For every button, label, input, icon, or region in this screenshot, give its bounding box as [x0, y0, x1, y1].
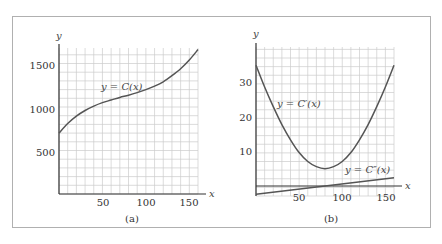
x-tick-50-a: 50 — [97, 197, 110, 208]
curve-label-c-double-prime: y = C″(x) — [344, 164, 390, 175]
x-tick-50-b: 50 — [293, 192, 306, 203]
y-tick-10: 10 — [239, 146, 252, 157]
panel-b: y x 10 20 30 50 100 150 y = C′(x) y = C″… — [239, 28, 411, 224]
grid-a — [59, 48, 198, 194]
y-tick-500: 500 — [36, 147, 55, 158]
caption-a: (a) — [125, 213, 139, 224]
y-tick-1500: 1500 — [30, 60, 55, 71]
x-axis-label-b: x — [405, 180, 411, 191]
caption-b: (b) — [324, 213, 338, 224]
y-axis-label-b: y — [252, 28, 259, 39]
y-tick-20: 20 — [239, 112, 252, 123]
x-tick-100-b: 100 — [332, 192, 351, 203]
curve-label-c: y = C(x) — [100, 81, 143, 92]
panel-a: y x 500 1000 1500 50 100 150 y = C(x) (a… — [30, 30, 215, 224]
x-tick-150-b: 150 — [376, 192, 395, 203]
curve-label-c-prime: y = C′(x) — [276, 98, 321, 109]
figure-canvas: y x 500 1000 1500 50 100 150 y = C(x) (a… — [0, 0, 442, 244]
x-tick-100-a: 100 — [136, 197, 155, 208]
x-tick-150-a: 150 — [179, 197, 198, 208]
y-axis-label-a: y — [55, 30, 62, 41]
x-axis-label-a: x — [209, 188, 215, 199]
y-tick-1000: 1000 — [30, 104, 55, 115]
y-tick-30: 30 — [239, 77, 252, 88]
